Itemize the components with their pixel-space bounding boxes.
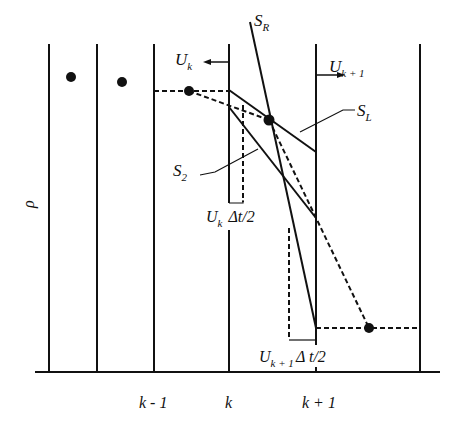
tick-label-k1: k + 1 — [302, 394, 336, 411]
data-point-center — [264, 115, 275, 126]
upper-bracket — [229, 200, 243, 203]
lower-displacement-label: Uk + 1Δ t/2 — [259, 348, 326, 369]
data-point — [364, 323, 374, 333]
s-2-label: S2 — [173, 161, 188, 183]
y-axis-label: ρ — [20, 200, 38, 209]
s-l-leader — [300, 110, 355, 132]
tick-label-k-1: k - 1 — [139, 394, 167, 411]
u-k-label: Uk — [175, 50, 193, 72]
diagram-canvas: ρ k - 1 k k + 1 Uk Uk + 1 SR SL S2 UkΔt/… — [0, 0, 454, 428]
cell-diagram: ρ k - 1 k k + 1 Uk Uk + 1 SR SL S2 UkΔt/… — [0, 0, 454, 428]
data-point — [117, 77, 127, 87]
data-point — [184, 86, 194, 96]
dashed-slope-2 — [269, 120, 369, 328]
upper-displacement-label: UkΔt/2 — [206, 208, 255, 229]
u-k-arrowhead — [203, 59, 211, 65]
data-point — [66, 72, 76, 82]
s-l-label: SL — [357, 101, 372, 123]
tick-label-k: k — [225, 394, 233, 411]
u-k1-label: Uk + 1 — [329, 57, 365, 79]
s-r-label: SR — [254, 11, 270, 33]
